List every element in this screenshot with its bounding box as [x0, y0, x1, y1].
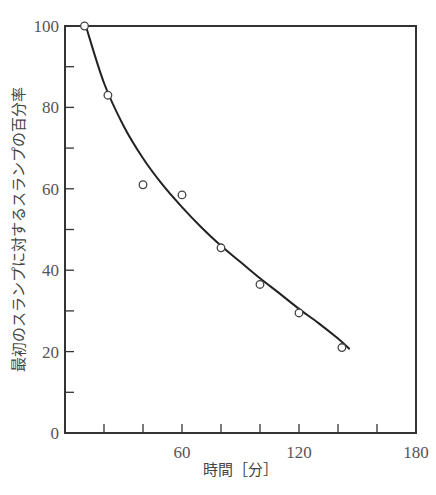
y-tick-label: 0 [51, 424, 60, 443]
slump-chart: 60120180020406080100 時間［分］ 最初のスランプに対するスラ… [0, 0, 436, 495]
data-point-marker [217, 244, 225, 252]
data-point-marker [256, 281, 264, 289]
data-point-marker [338, 344, 346, 352]
data-point-marker [295, 309, 303, 317]
y-tick-label: 80 [42, 98, 59, 117]
fitted-curve [86, 28, 349, 349]
x-tick-label: 60 [174, 443, 191, 462]
data-point-marker [81, 22, 89, 30]
data-point-marker [139, 181, 147, 189]
y-tick-label: 60 [42, 180, 59, 199]
data-points [81, 22, 346, 351]
y-tick-label: 100 [34, 17, 60, 36]
data-point-marker [104, 91, 112, 99]
tick-labels: 60120180020406080100 [34, 17, 429, 462]
plot-frame [65, 26, 416, 433]
x-tick-label: 120 [286, 443, 312, 462]
x-axis-title: 時間［分］ [203, 461, 278, 479]
y-axis-title: 最初のスランプに対するスランプの百分率 [10, 87, 28, 372]
x-tick-label: 180 [403, 443, 429, 462]
y-tick-label: 20 [42, 343, 59, 362]
data-point-marker [178, 191, 186, 199]
y-tick-label: 40 [42, 261, 59, 280]
